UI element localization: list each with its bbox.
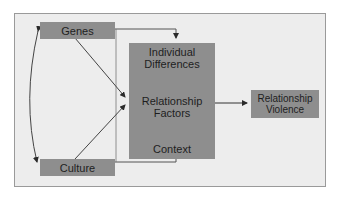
individual-line1: Individual xyxy=(129,46,215,58)
node-culture: Culture xyxy=(40,159,115,176)
node-genes-label: Genes xyxy=(61,25,93,37)
individual-line2: Differences xyxy=(129,58,215,70)
node-relationship-violence: Relationship Violence xyxy=(251,90,319,118)
relationship-factors-line1: Relationship xyxy=(129,95,215,107)
node-central: Individual Differences Relationship Fact… xyxy=(129,43,215,159)
node-individual-differences: Individual Differences xyxy=(129,46,215,70)
node-genes: Genes xyxy=(40,22,115,39)
node-relationship-factors: Relationship Factors xyxy=(129,95,215,119)
violence-line2: Violence xyxy=(251,104,319,115)
context-label: Context xyxy=(129,143,215,155)
node-culture-label: Culture xyxy=(60,162,95,174)
violence-line1: Relationship xyxy=(251,93,319,104)
relationship-factors-line2: Factors xyxy=(129,107,215,119)
node-context: Context xyxy=(129,143,215,155)
